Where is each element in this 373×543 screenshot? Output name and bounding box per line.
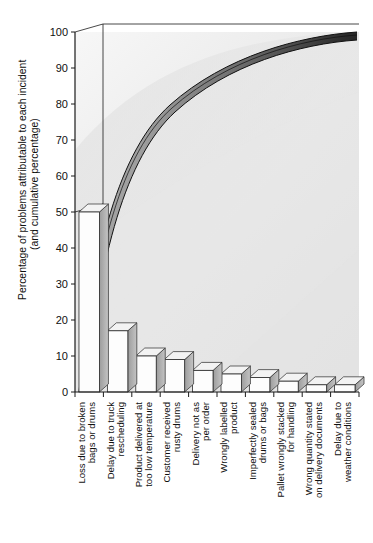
category-label-4: rusty drums xyxy=(171,402,182,452)
y-axis-title-line1: Percentage of problems attributable to e… xyxy=(17,60,28,300)
category-label-7: drums or bags xyxy=(257,402,268,464)
y-tick-label: 90 xyxy=(56,62,68,74)
pareto-chart-figure: 0102030405060708090100 Loss due to broke… xyxy=(0,0,373,543)
y-tick-label: 30 xyxy=(56,278,68,290)
y-tick-label: 60 xyxy=(56,170,68,182)
y-tick-label: 40 xyxy=(56,242,68,254)
category-label-8: for handling xyxy=(285,402,296,452)
category-label-5: per order xyxy=(200,401,211,441)
category-label-3: too low temperature xyxy=(143,402,154,487)
bar-6 xyxy=(221,366,250,392)
y-tick-label: 70 xyxy=(56,134,68,146)
y-tick-label: 50 xyxy=(56,206,68,218)
bar-4 xyxy=(164,352,193,392)
y-tick-label: 20 xyxy=(56,314,68,326)
bar-2 xyxy=(107,323,136,392)
bar-3 xyxy=(136,348,165,392)
category-label-1: bags or drums xyxy=(86,402,97,464)
category-label-6: product xyxy=(228,402,239,434)
y-tick-label: 100 xyxy=(50,26,68,38)
category-label-2: rescheduling xyxy=(115,402,126,456)
y-tick-label: 80 xyxy=(56,98,68,110)
y-tick-label: 0 xyxy=(62,386,68,398)
category-label-10: weather conditions xyxy=(342,402,353,483)
y-axis-title-line2: (and cumulative percentage) xyxy=(29,118,40,250)
category-label-9: on delivery documents xyxy=(313,402,324,498)
pareto-chart-svg: 0102030405060708090100 Loss due to broke… xyxy=(0,0,373,543)
bar-5 xyxy=(193,362,222,392)
y-tick-label: 10 xyxy=(56,350,68,362)
bar-1 xyxy=(79,204,108,392)
